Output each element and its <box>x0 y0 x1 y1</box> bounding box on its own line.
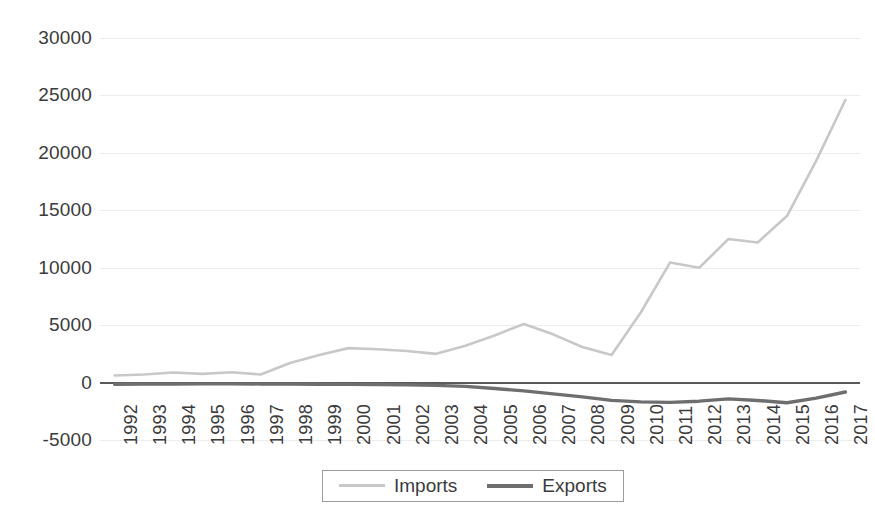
x-axis-tick-label: 2015 <box>794 404 812 445</box>
legend-swatch-exports <box>487 484 533 488</box>
x-axis-tick-label: 2001 <box>385 404 403 445</box>
x-axis-tick-label: 1996 <box>239 404 257 445</box>
x-axis-tick-label: 2005 <box>502 404 520 445</box>
x-axis-tick-label: 2002 <box>414 404 432 445</box>
x-axis-tick-label: 1994 <box>180 404 198 445</box>
x-axis-tick-label: 2000 <box>355 404 373 445</box>
x-axis-tick-label: 2016 <box>823 404 841 445</box>
x-axis-tick-label: 2011 <box>677 405 695 445</box>
x-axis-tick-label: 2006 <box>531 404 549 445</box>
x-axis-tick-label: 2004 <box>472 404 490 445</box>
line-chart: 300002500020000150001000050000-5000 1992… <box>0 0 875 528</box>
legend-label-imports: Imports <box>394 476 457 495</box>
x-axis-tick-label: 1992 <box>122 404 140 445</box>
x-axis-tick-label: 2014 <box>765 404 783 445</box>
x-axis-tick-label: 2007 <box>560 404 578 445</box>
x-axis-tick-label: 1998 <box>297 404 315 445</box>
legend-label-exports: Exports <box>542 476 606 495</box>
x-axis-tick-label: 1995 <box>209 404 227 445</box>
x-axis-tick-label: 1999 <box>326 404 344 445</box>
legend-item-exports[interactable]: Exports <box>487 476 606 495</box>
x-axis-tick-label: 1993 <box>151 404 169 445</box>
x-axis-tick-label: 2009 <box>619 404 637 445</box>
legend-item-imports[interactable]: Imports <box>339 476 457 495</box>
chart-legend: ImportsExports <box>322 470 624 502</box>
x-axis-tick-label: 2017 <box>852 404 870 445</box>
x-axis-tick-label: 2003 <box>443 404 461 445</box>
x-axis-tick-label: 2010 <box>648 404 666 445</box>
x-axis-tick-label: 2008 <box>589 404 607 445</box>
x-axis: 1992199319941995199619971998199920002001… <box>0 0 875 528</box>
x-axis-tick-label: 1997 <box>268 404 286 445</box>
x-axis-tick-label: 2013 <box>735 404 753 445</box>
legend-swatch-imports <box>339 484 385 487</box>
x-axis-tick-label: 2012 <box>706 404 724 445</box>
